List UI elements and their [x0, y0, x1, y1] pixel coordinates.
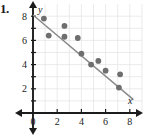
data-point	[62, 34, 68, 40]
data-point	[117, 71, 123, 77]
data-point	[79, 51, 85, 57]
x-tick-label: 4	[79, 116, 84, 127]
y-tick-label: 8	[22, 11, 27, 22]
scatter-plot-canvas: 02468 2468 x y	[0, 0, 144, 139]
y-axis-label: y	[37, 4, 43, 15]
axes	[15, 1, 143, 135]
data-points	[41, 16, 123, 91]
data-point	[88, 62, 94, 68]
y-tick-label: 6	[22, 35, 27, 46]
y-axis-arrow	[29, 1, 37, 8]
x-axis-arrow-left	[15, 109, 22, 117]
x-tick-label: 6	[103, 116, 108, 127]
y-tick-label: 2	[22, 83, 27, 94]
grid-lines	[33, 4, 142, 113]
data-point	[116, 85, 122, 91]
x-tick-label: 8	[127, 116, 132, 127]
y-tick-label: 4	[22, 59, 27, 70]
data-point	[41, 16, 47, 22]
data-point	[75, 35, 81, 41]
x-axis-ticks: 02468	[31, 109, 133, 127]
scatter-plot-figure: 1. 02468 2468 x y	[0, 0, 144, 139]
y-axis-arrow-down	[29, 128, 37, 135]
x-tick-label: 0	[31, 116, 36, 127]
x-axis-label: x	[127, 95, 133, 106]
data-point	[62, 23, 68, 29]
data-point	[95, 58, 101, 64]
data-point	[103, 68, 109, 74]
data-point	[46, 33, 52, 39]
x-tick-label: 2	[55, 116, 60, 127]
